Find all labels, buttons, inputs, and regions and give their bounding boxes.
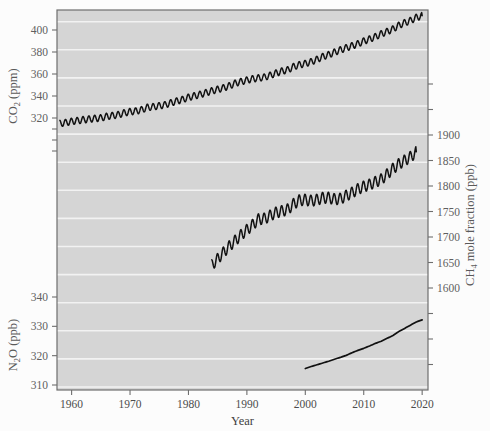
x-tick-label: 1970 [119,398,142,410]
y-tick-label-ch4: 1800 [437,180,460,192]
y-tick-label-co2: 400 [31,24,49,36]
y-tick-label-co2: 360 [31,68,49,80]
x-tick-label: 2010 [352,398,375,410]
y-tick-label-ch4: 1850 [437,155,460,167]
y-tick-label-ch4: 1900 [437,129,460,141]
y-axis-title-ch4: CH4 mole fraction (ppb) [463,164,479,286]
x-axis-title: Year [231,414,255,428]
y-tick-label-ch4: 1750 [437,206,460,218]
y-tick-label-co2: 380 [31,46,49,58]
y-axis-title-co2: CO2 (ppm) [6,68,22,123]
y-tick-label-n2o: 330 [31,320,49,332]
y-tick-label-ch4: 1600 [437,282,460,294]
y-tick-label-n2o: 340 [31,291,49,303]
y-axis-title-co2-text: CO2 (ppm) [6,68,22,123]
y-tick-label-ch4: 1700 [437,231,460,243]
x-tick-label: 1990 [235,398,258,410]
x-tick-label: 1980 [177,398,200,410]
x-tick-label: 2020 [411,398,434,410]
y-tick-label-co2: 340 [31,90,49,102]
y-axis-title-ch4-text: CH4 mole fraction (ppb) [463,164,479,286]
chart-canvas: 1960197019801990200020102020320340360380… [0,0,490,431]
x-tick-label: 2000 [294,398,317,410]
plot-panel-background [57,10,428,390]
y-axis-title-n2o-text: N2O (ppb) [6,319,22,371]
greenhouse-gas-chart: 1960197019801990200020102020320340360380… [0,0,490,431]
y-axis-title-n2o: N2O (ppb) [6,319,22,371]
y-tick-label-n2o: 310 [31,379,49,391]
y-tick-label-co2: 320 [31,112,49,124]
y-tick-label-n2o: 320 [31,350,49,362]
y-tick-label-ch4: 1650 [437,257,460,269]
x-tick-label: 1960 [60,398,83,410]
